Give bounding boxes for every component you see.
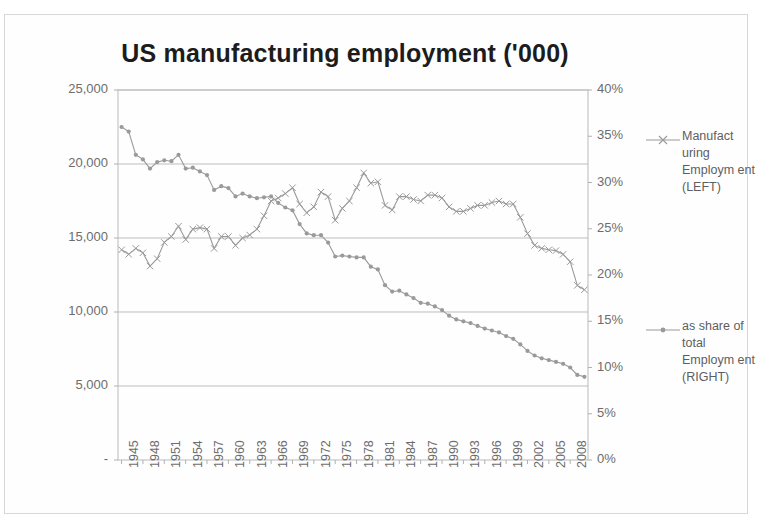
y-axis-right-tick-label: 25%	[597, 220, 645, 235]
x-axis-tick-label: 1960	[233, 440, 247, 468]
x-axis-tick-label: 1945	[127, 440, 141, 468]
chart-plot-area	[0, 0, 757, 523]
x-axis-tick-label: 1948	[148, 440, 162, 468]
x-axis-tick-label: 1993	[468, 440, 482, 468]
y-axis-right-tick-label: 35%	[597, 127, 645, 142]
x-axis-tick-label: 1951	[169, 440, 183, 468]
y-axis-left-tick-label: 15,000	[48, 229, 108, 244]
y-axis-left-tick-label: 5,000	[48, 377, 108, 392]
x-axis-tick-label: 1990	[447, 440, 461, 468]
x-axis-tick-label: 1978	[362, 440, 376, 468]
y-axis-left-tick-label: 20,000	[48, 155, 108, 170]
y-axis-right-tick-label: 10%	[597, 359, 645, 374]
x-axis-tick-label: 2005	[554, 440, 568, 468]
x-axis-tick-label: 1972	[319, 440, 333, 468]
y-axis-right-tick-label: 15%	[597, 312, 645, 327]
y-axis-right-tick-label: 40%	[597, 81, 645, 96]
x-axis-tick-label: 2008	[575, 440, 589, 468]
y-axis-left-tick-label: -	[48, 451, 108, 466]
x-axis-tick-label: 1957	[212, 440, 226, 468]
y-axis-right-tick-label: 20%	[597, 266, 645, 281]
x-axis-tick-label: 1981	[383, 440, 397, 468]
y-axis-left-tick-label: 10,000	[48, 303, 108, 318]
x-marker-line	[646, 135, 680, 145]
y-axis-left-tick-label: 25,000	[48, 81, 108, 96]
legend-label: Manufact uring Employm ent (LEFT)	[682, 128, 757, 196]
x-axis-tick-label: 1975	[340, 440, 354, 468]
x-axis-tick-label: 1969	[297, 440, 311, 468]
x-axis-tick-label: 1984	[404, 440, 418, 468]
y-axis-right-tick-label: 5%	[597, 405, 645, 420]
x-axis-tick-label: 1966	[276, 440, 290, 468]
x-axis-tick-label: 1996	[490, 440, 504, 468]
x-axis-tick-label: 1963	[255, 440, 269, 468]
series-employment	[118, 170, 587, 293]
dot-marker-line	[646, 325, 680, 335]
x-axis-tick-label: 1954	[191, 440, 205, 468]
legend-label: as share of total Employm ent (RIGHT)	[682, 318, 757, 386]
series-share	[120, 125, 587, 379]
x-axis-tick-label: 1987	[426, 440, 440, 468]
x-axis-tick-label: 2002	[532, 440, 546, 468]
y-axis-right-tick-label: 0%	[597, 451, 645, 466]
y-axis-right-tick-label: 30%	[597, 174, 645, 189]
x-axis-tick-label: 1999	[511, 440, 525, 468]
